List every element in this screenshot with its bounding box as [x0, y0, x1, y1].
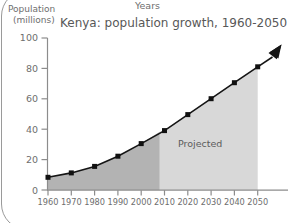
y-tick-label-80: 80: [12, 63, 38, 74]
historical-area: [48, 132, 160, 190]
projected-region-label: Projected: [178, 138, 222, 149]
trend-arrow-head-fill: [270, 45, 282, 59]
population-growth-chart: Population (millions) Kenya: population …: [0, 0, 295, 223]
y-tick-label-0: 0: [12, 185, 38, 196]
chart-svg: [0, 0, 295, 223]
x-axis-ticks: [48, 190, 258, 195]
x-tick-label-2050: 2050: [243, 197, 273, 207]
projected-area: [160, 67, 258, 190]
y-tick-label-100: 100: [12, 32, 38, 43]
y-tick-label-40: 40: [12, 124, 38, 135]
figure-container: Population (millions) Kenya: population …: [0, 0, 295, 223]
y-tick-label-60: 60: [12, 93, 38, 104]
y-tick-label-20: 20: [12, 154, 38, 165]
y-axis-ticks: [42, 38, 48, 190]
